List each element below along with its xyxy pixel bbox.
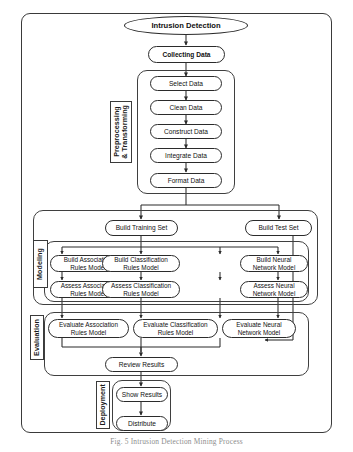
node-review-results-label: Review Results	[119, 361, 164, 369]
node-evaluate-neural-network-model-line2: Network Model	[238, 329, 281, 336]
node-assess-classification-rules-model-line2: Rules Model	[123, 290, 159, 297]
phase-label-evaluation-text: Evaluation	[33, 319, 41, 356]
flowchart-diagram: Preprocessing & Transforming Modeling Ev…	[0, 0, 353, 452]
node-distribute-label: Distribute	[128, 420, 156, 428]
node-construct-data-label: Construct Data	[164, 128, 208, 136]
node-build-test-set[interactable]: Build Test Set	[245, 220, 312, 236]
node-assess-classification-rules-model-line1: Assess Classification	[111, 282, 171, 289]
node-format-data[interactable]: Format Data	[150, 173, 222, 188]
node-evaluate-neural-network-model[interactable]: Evaluate NeuralNetwork Model	[222, 319, 296, 338]
diagram-canvas: Preprocessing & Transforming Modeling Ev…	[0, 0, 353, 452]
phase-label-modeling-text: Modeling	[36, 248, 44, 280]
node-review-results[interactable]: Review Results	[105, 357, 178, 372]
node-build-test-set-label: Build Test Set	[258, 224, 298, 232]
node-evaluate-association-rules-model[interactable]: Evaluate AssociationRules Model	[48, 319, 129, 338]
node-show-results[interactable]: Show Results	[116, 387, 168, 402]
phase-label-evaluation: Evaluation	[30, 315, 44, 360]
node-integrate-data-label: Integrate Data	[165, 152, 207, 160]
node-evaluate-classification-rules-model[interactable]: Evaluate ClassificationRules Model	[133, 319, 218, 338]
node-build-neural-network-model-line2: Network Model	[253, 264, 296, 271]
node-build-training-set[interactable]: Build Training Set	[105, 220, 178, 236]
phase-label-deployment-text: Deployment	[99, 384, 107, 426]
node-intrusion-detection[interactable]: Intrusion Detection	[124, 16, 248, 35]
node-collecting-data[interactable]: Collecting Data	[148, 46, 225, 63]
figure-caption: Fig. 5 Intrusion Detection Mining Proces…	[0, 437, 353, 446]
phase-label-modeling: Modeling	[33, 240, 48, 288]
node-build-classification-rules-model-line2: Rules Model	[123, 264, 159, 271]
node-assess-neural-network-model[interactable]: Assess NeuralNetwork Model	[240, 281, 308, 298]
node-integrate-data[interactable]: Integrate Data	[150, 148, 222, 163]
node-build-classification-rules-model-line1: Build Classification	[114, 256, 168, 263]
node-intrusion-detection-label: Intrusion Detection	[151, 22, 220, 30]
node-build-neural-network-model[interactable]: Build NeuralNetwork Model	[240, 255, 308, 272]
node-build-association-rules-model-line2: Rules Model	[70, 264, 106, 271]
node-evaluate-neural-network-model-line1: Evaluate Neural	[236, 321, 281, 328]
node-construct-data[interactable]: Construct Data	[150, 124, 222, 139]
node-build-classification-rules-model[interactable]: Build ClassificationRules Model	[102, 255, 180, 272]
node-assess-neural-network-model-line2: Network Model	[253, 290, 296, 297]
node-evaluate-association-rules-model-line1: Evaluate Association	[59, 321, 118, 328]
node-build-neural-network-model-line1: Build Neural	[257, 256, 292, 263]
node-clean-data[interactable]: Clean Data	[150, 100, 222, 115]
node-evaluate-classification-rules-model-line1: Evaluate Classification	[143, 321, 207, 328]
node-assess-neural-network-model-line1: Assess Neural	[253, 282, 294, 289]
node-collecting-data-label: Collecting Data	[163, 51, 211, 59]
node-evaluate-association-rules-model-line2: Rules Model	[71, 329, 107, 336]
node-select-data[interactable]: Select Data	[150, 76, 222, 91]
node-assess-association-rules-model-line2: Rules Model	[70, 290, 106, 297]
node-format-data-label: Format Data	[168, 177, 205, 185]
node-assess-classification-rules-model[interactable]: Assess ClassificationRules Model	[102, 281, 180, 298]
node-select-data-label: Select Data	[169, 80, 203, 88]
phase-label-preprocessing: Preprocessing & Transforming	[110, 101, 132, 163]
node-clean-data-label: Clean Data	[170, 104, 203, 112]
node-show-results-label: Show Results	[122, 391, 162, 399]
phase-label-deployment: Deployment	[96, 381, 110, 429]
phase-label-preprocessing-text: Preprocessing & Transforming	[113, 105, 130, 159]
node-distribute[interactable]: Distribute	[116, 416, 168, 431]
node-build-training-set-label: Build Training Set	[116, 224, 168, 232]
node-evaluate-classification-rules-model-line2: Rules Model	[158, 329, 194, 336]
